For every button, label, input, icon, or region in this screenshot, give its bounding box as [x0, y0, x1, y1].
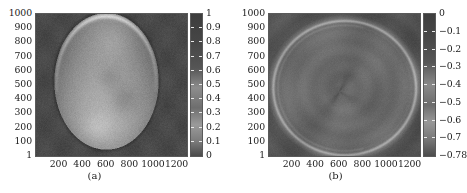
panel_a-ctick-mark [199, 98, 202, 99]
panel_a-ctick-mark [191, 112, 194, 113]
panel_b-ytick-300: 300 [229, 107, 265, 116]
panel_b-ctick-mark [432, 49, 435, 50]
panel_b-ytick-600: 600 [229, 65, 265, 74]
panel_a-ctick-mark [191, 70, 194, 71]
panel-b: 10009008007006005004003002001001 2004006… [233, 0, 466, 193]
panel_a-ctick-mark [191, 98, 194, 99]
panel_a-ctick-0.7: 0.7 [206, 51, 221, 60]
panel_a-ctick-mark [199, 112, 202, 113]
panel-b-colorbar [423, 13, 436, 157]
panel_a-ctick-mark [199, 127, 202, 128]
panel_b-ctick-mark [424, 120, 427, 121]
panel_a-ctick-mark [191, 41, 194, 42]
panel-a-colorbar [190, 13, 203, 157]
panel-a-colorbar-gradient [191, 14, 202, 156]
panel_b-ctick--0.3: −0.3 [439, 61, 461, 70]
panel_b-ctick-mark [424, 66, 427, 67]
panel-b-caption-label: (b) [328, 170, 342, 181]
panel_b-ytick-1: 1 [229, 150, 265, 159]
panel_a-ctick-0.1: 0.1 [206, 136, 221, 145]
panel_a-ctick-mark [199, 70, 202, 71]
panel_a-ctick-0.9: 0.9 [206, 22, 221, 31]
panel_a-ctick-mark [199, 56, 202, 57]
panel_b-ctick-mark [424, 102, 427, 103]
panel_a-ctick-0.2: 0.2 [206, 122, 221, 131]
panel_a-ytick-300: 300 [0, 107, 32, 116]
panel_b-ctick-mark [432, 84, 435, 85]
panel-a-caption-label: (a) [88, 170, 102, 181]
panel_a-ctick-mark [191, 84, 194, 85]
panel-a-caption: (a) [0, 170, 233, 181]
panel_b-ytick-800: 800 [229, 36, 265, 45]
panel_b-ctick--0.78: −0.78 [439, 150, 467, 159]
panel_a-ctick-mark [199, 41, 202, 42]
panel_a-ctick-0: 0 [206, 150, 212, 159]
panel_b-ctick-mark [432, 31, 435, 32]
panel_b-ctick-0: 0 [439, 8, 445, 17]
panel_a-ctick-mark [191, 141, 194, 142]
panel_a-ytick-700: 700 [0, 51, 32, 60]
panel_b-xtick-1200: 1200 [390, 159, 430, 168]
panel_a-ctick-0.6: 0.6 [206, 65, 221, 74]
panel_b-ctick-mark [424, 137, 427, 138]
panel_b-ctick-mark [424, 49, 427, 50]
panel-a-heatmap-image [36, 14, 187, 156]
panel_b-ytick-200: 200 [229, 122, 265, 131]
panel_a-ctick-mark [199, 84, 202, 85]
panel_b-ctick-mark [432, 102, 435, 103]
panel_b-ctick--0.7: −0.7 [439, 132, 461, 141]
panel_a-ctick-0.4: 0.4 [206, 93, 221, 102]
panel_a-ctick-mark [199, 141, 202, 142]
panel_a-ytick-200: 200 [0, 122, 32, 131]
panel-b-heatmap-image [269, 14, 420, 156]
panel_b-ctick--0.1: −0.1 [439, 26, 461, 35]
panel_a-ytick-400: 400 [0, 93, 32, 102]
panel_a-ytick-600: 600 [0, 65, 32, 74]
panel_b-ctick--0.5: −0.5 [439, 97, 461, 106]
panel_a-ytick-800: 800 [0, 36, 32, 45]
panel_a-ctick-mark [199, 27, 202, 28]
panel_a-ytick-1: 1 [0, 150, 32, 159]
panel_b-ctick-mark [432, 137, 435, 138]
panel_b-ctick-mark [424, 84, 427, 85]
panel_b-ctick--0.4: −0.4 [439, 79, 461, 88]
panel_b-ytick-100: 100 [229, 136, 265, 145]
panel-b-caption: (b) [233, 170, 466, 181]
panel_b-ctick--0.2: −0.2 [439, 44, 461, 53]
panel_a-ctick-0.5: 0.5 [206, 79, 221, 88]
panel_b-ctick-mark [432, 66, 435, 67]
panel_a-ctick-mark [191, 127, 194, 128]
panel_b-ctick-mark [432, 120, 435, 121]
panel_b-ytick-400: 400 [229, 93, 265, 102]
panel_a-ctick-mark [191, 56, 194, 57]
panel_a-ctick-0.8: 0.8 [206, 36, 221, 45]
panel-a: 10009008007006005004003002001001 2004006… [0, 0, 233, 193]
panel_b-ytick-900: 900 [229, 22, 265, 31]
panel_a-ytick-500: 500 [0, 79, 32, 88]
panel_a-ytick-1000: 1000 [0, 8, 32, 17]
panel_a-ctick-mark [191, 27, 194, 28]
panel_a-xtick-1200: 1200 [157, 159, 197, 168]
panel_a-ytick-100: 100 [0, 136, 32, 145]
panel-a-plot-area [35, 13, 188, 157]
panel_b-ytick-1000: 1000 [229, 8, 265, 17]
panel_b-ytick-700: 700 [229, 51, 265, 60]
panel-b-plot-area [268, 13, 421, 157]
panel-b-colorbar-gradient [424, 14, 435, 156]
panel_a-ctick-0.3: 0.3 [206, 107, 221, 116]
panel_a-ctick-1: 1 [206, 8, 212, 17]
panel_b-ctick-mark [424, 31, 427, 32]
panel_a-ytick-900: 900 [0, 22, 32, 31]
panel_b-ytick-500: 500 [229, 79, 265, 88]
panel_b-ctick--0.6: −0.6 [439, 115, 461, 124]
